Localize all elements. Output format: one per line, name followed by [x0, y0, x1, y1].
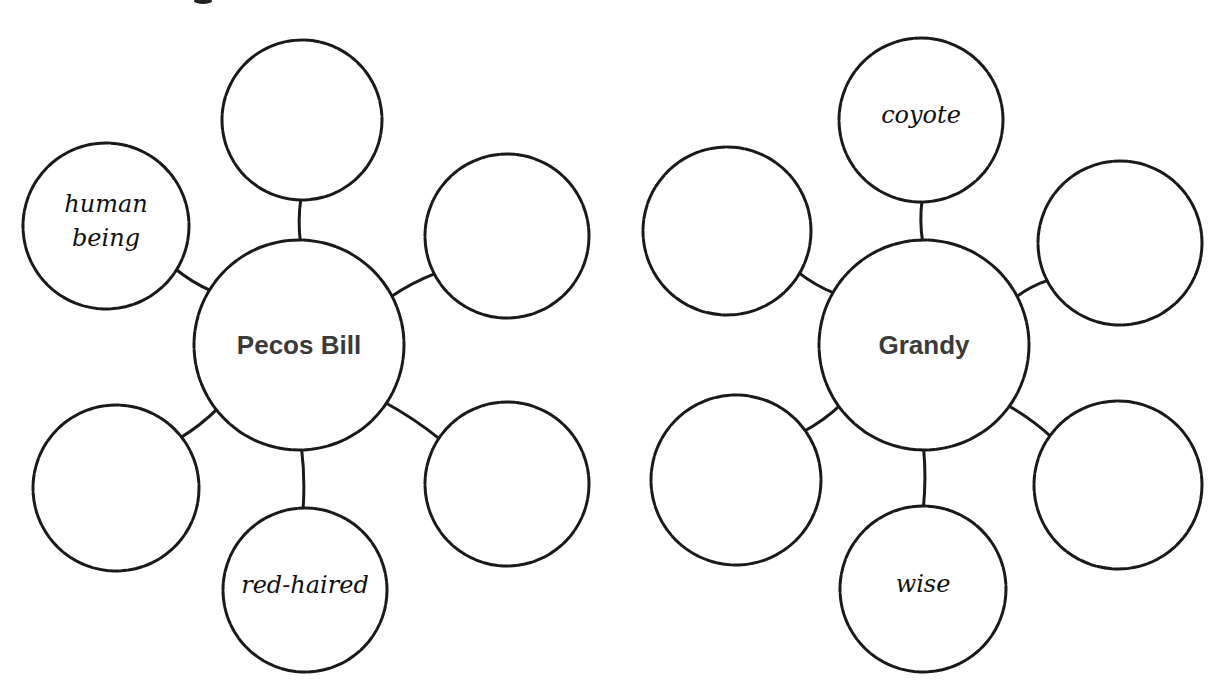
- node-circle: [1038, 161, 1202, 325]
- web-node-bottom: wise: [840, 506, 1006, 672]
- web-node-top-right: [1038, 161, 1202, 325]
- web-node-bottom-left: [651, 395, 821, 565]
- node-label: red-haired: [241, 571, 369, 599]
- connector-line: [921, 200, 923, 242]
- node-label: coyote: [881, 101, 961, 129]
- clipped-text-fragment: [194, 0, 212, 4]
- connector-line: [1008, 405, 1052, 437]
- web-node-top-left: humanbeing: [23, 143, 189, 309]
- web-node-top-left: [643, 147, 811, 315]
- node-circle: [33, 405, 199, 571]
- node-label: human: [64, 190, 147, 218]
- node-circle: [1034, 401, 1202, 569]
- web-node-bottom-right: [1034, 401, 1202, 569]
- node-label: being: [72, 224, 140, 252]
- connector-line: [385, 402, 441, 439]
- connector-line: [923, 448, 925, 508]
- web-node-top: [222, 40, 382, 200]
- character-webs: humanbeingred-hairedPecos Billcoyotewise…: [0, 0, 1224, 699]
- connector-line: [390, 273, 436, 297]
- node-circle: [425, 402, 589, 566]
- grandy-web: coyotewiseGrandy: [643, 38, 1202, 672]
- web-node-bottom: red-haired: [223, 508, 387, 672]
- web-center: Grandy: [819, 240, 1029, 450]
- node-circle: [651, 395, 821, 565]
- web-node-top: coyote: [839, 38, 1003, 202]
- web-node-top-right: [425, 154, 589, 318]
- connector-line: [299, 198, 301, 242]
- connector-line: [1015, 280, 1049, 298]
- node-circle: [643, 147, 811, 315]
- web-center: Pecos Bill: [194, 240, 404, 450]
- pecos-bill-web: humanbeingred-hairedPecos Bill: [23, 40, 589, 672]
- connector-line: [175, 269, 211, 291]
- connector-line: [803, 405, 840, 432]
- node-circle: [222, 40, 382, 200]
- node-circle: [425, 154, 589, 318]
- connector-line: [302, 448, 304, 510]
- web-node-bottom-left: [33, 405, 199, 571]
- connector-line: [798, 272, 835, 293]
- web-nodes: humanbeingred-hairedPecos Billcoyotewise…: [23, 38, 1202, 672]
- center-label: Pecos Bill: [237, 330, 361, 360]
- web-node-bottom-right: [425, 402, 589, 566]
- center-label: Grandy: [878, 330, 970, 360]
- connector-line: [180, 408, 218, 438]
- node-label: wise: [896, 570, 951, 598]
